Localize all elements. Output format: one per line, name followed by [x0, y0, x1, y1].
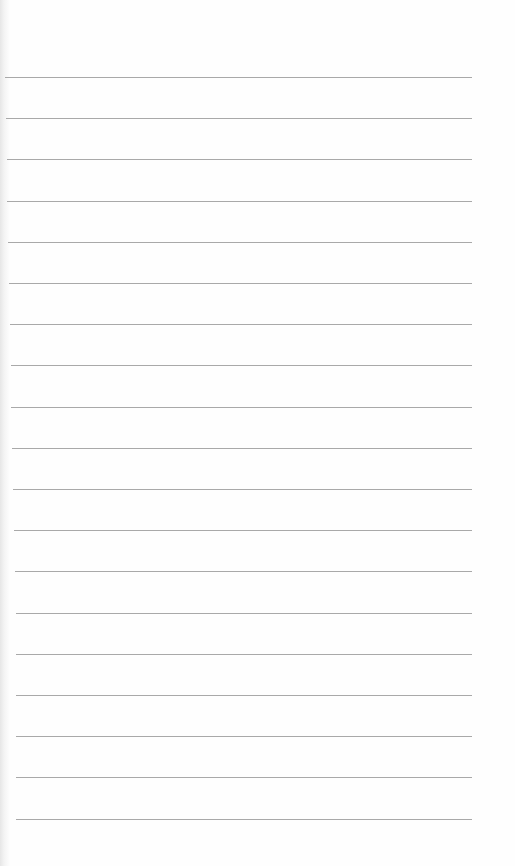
ruled-line — [12, 448, 472, 449]
ruled-line — [16, 819, 472, 820]
ruled-line — [14, 530, 472, 531]
ruled-line — [16, 736, 472, 737]
ruled-line — [8, 242, 472, 243]
ruled-line — [9, 283, 472, 284]
binding-edge-shadow — [0, 0, 10, 866]
ruled-line — [6, 118, 472, 119]
ruled-line — [5, 77, 472, 78]
ruled-line — [16, 777, 472, 778]
ruled-line — [7, 159, 472, 160]
ruled-line — [15, 571, 472, 572]
ruled-line — [11, 407, 472, 408]
ruled-line — [13, 489, 472, 490]
ruled-line — [16, 613, 472, 614]
lined-paper-page — [0, 0, 515, 866]
ruled-line — [7, 201, 472, 202]
ruled-line — [11, 365, 472, 366]
ruled-line — [10, 324, 472, 325]
ruled-line — [16, 654, 472, 655]
ruled-line — [16, 695, 472, 696]
